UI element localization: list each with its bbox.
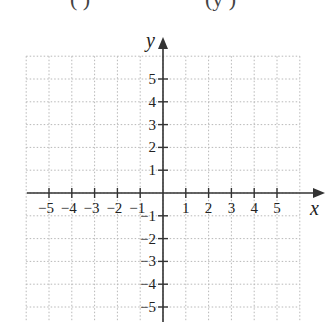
- x-axis-label: x: [309, 197, 319, 219]
- x-tick-label: 3: [228, 200, 236, 216]
- equation-fragment: ( ) (y ): [70, 0, 236, 11]
- x-tick-label: −5: [38, 200, 54, 216]
- x-tick-label: −2: [106, 200, 122, 216]
- y-tick-label: −4: [140, 276, 156, 292]
- y-tick-label: −2: [140, 231, 156, 247]
- y-tick-label: 1: [149, 162, 157, 178]
- equation-right: (y ): [205, 0, 236, 11]
- x-tick-label: 5: [273, 200, 281, 216]
- x-tick-label: 2: [205, 200, 213, 216]
- y-axis-arrow-icon: [158, 37, 168, 49]
- y-tick-label: 4: [149, 94, 157, 110]
- y-tick-label: −1: [140, 208, 156, 224]
- x-tick-label: 4: [250, 200, 258, 216]
- y-tick-label: 3: [149, 117, 157, 133]
- x-tick-label: −4: [61, 200, 77, 216]
- x-tick-label: 1: [182, 200, 190, 216]
- coordinate-plane: ( ) (y ) −5−4−3−2−112345−5−4−3−2−112345 …: [0, 0, 330, 322]
- y-tick-label: 5: [149, 71, 157, 87]
- x-tick-label: −3: [84, 200, 100, 216]
- y-tick-label: 2: [149, 139, 157, 155]
- y-axis-label: y: [144, 29, 155, 52]
- y-tick-label: −5: [140, 299, 156, 315]
- y-tick-label: −3: [140, 253, 156, 269]
- equation-left: ( ): [70, 0, 90, 11]
